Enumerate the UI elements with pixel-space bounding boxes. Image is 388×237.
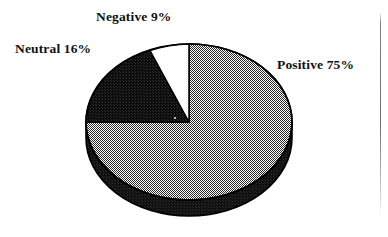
pie-chart-graphic [0,0,388,237]
chart-page: Negative 9% Neutral 16% Positive 75% [0,0,388,237]
pie-label-positive: Positive 75% [277,58,354,72]
pie-label-negative: Negative 9% [96,10,172,24]
pie-top-face [86,44,292,200]
page-edge-scan-line [380,12,381,215]
scan-noise-speck [174,117,176,119]
pie-label-neutral: Neutral 16% [15,42,91,56]
pie-chart: Negative 9% Neutral 16% Positive 75% [0,0,388,237]
